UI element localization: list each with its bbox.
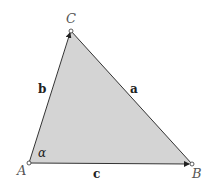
vertex-c-label: C: [66, 11, 76, 26]
triangle-diagram: C A B b a c α: [0, 0, 209, 189]
side-c-label: c: [93, 167, 100, 181]
side-b-label: b: [38, 82, 46, 96]
angle-alpha-label: α: [38, 146, 46, 160]
vertex-b-label: B: [191, 166, 202, 181]
vertex-a-label: A: [16, 163, 26, 178]
side-a-label: a: [130, 82, 138, 96]
vertex-a-point[interactable]: [27, 161, 31, 165]
vertex-c-point[interactable]: [69, 29, 73, 33]
triangle-fill: [29, 31, 192, 164]
